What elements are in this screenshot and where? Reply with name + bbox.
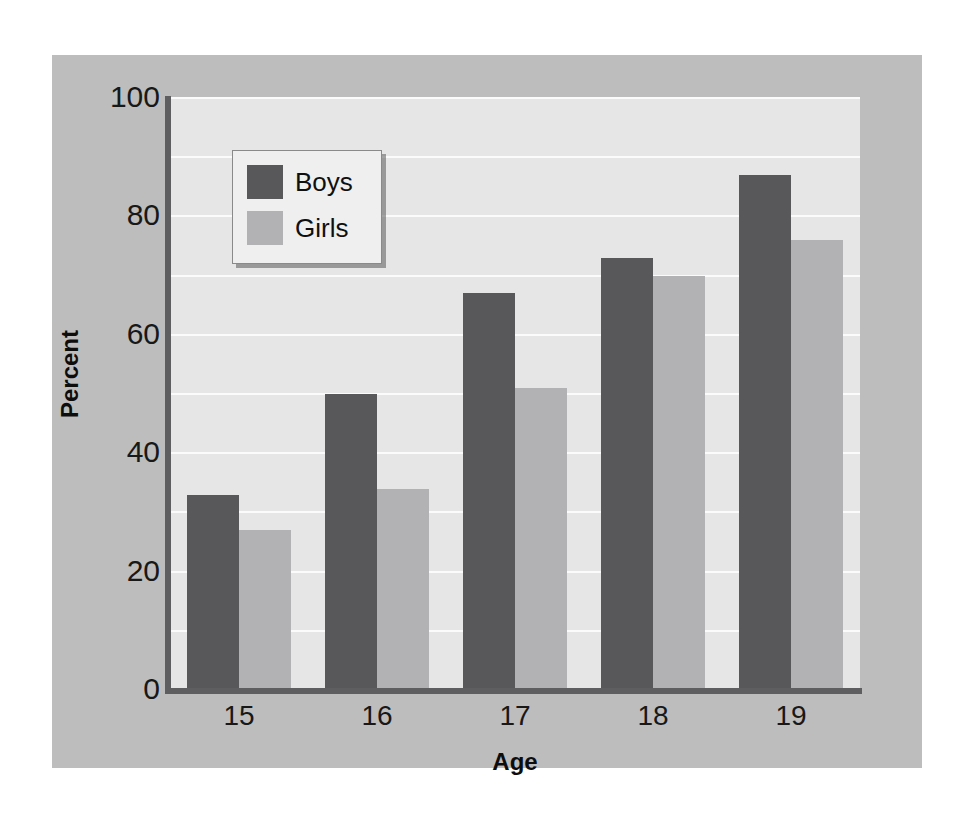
bar-boys-16 [325,394,377,690]
bar-girls-17 [515,388,567,690]
y-tick-label: 100 [100,82,160,112]
bar-girls-18 [653,276,705,690]
legend-item-boys: Boys [247,163,353,201]
y-tick-label: 60 [100,319,160,349]
x-tick-label-17: 17 [446,700,584,732]
legend-swatch-girls [247,211,283,245]
bar-group [584,98,722,690]
bar-boys-17 [463,293,515,690]
bar-group [446,98,584,690]
y-axis-title: Percent [56,294,84,454]
bar-boys-19 [739,175,791,690]
legend-label-boys: Boys [295,169,353,195]
bar-girls-16 [377,489,429,690]
y-tick-label: 40 [100,437,160,467]
x-tick-label-19: 19 [722,700,860,732]
y-tick-label: 20 [100,556,160,586]
x-axis-line [165,688,862,694]
bar-group [722,98,860,690]
bar-boys-15 [187,495,239,690]
chart-legend: BoysGirls [232,150,382,264]
x-axis-title: Age [170,748,860,776]
y-tick-label: 80 [100,200,160,230]
bar-boys-18 [601,258,653,690]
x-tick-label-16: 16 [308,700,446,732]
legend-label-girls: Girls [295,215,348,241]
y-axis-line [165,96,171,694]
bar-girls-19 [791,240,843,690]
y-tick-label: 0 [100,674,160,704]
chart-figure: 020406080100 1516171819 Percent Age Boys… [0,0,968,824]
bar-girls-15 [239,530,291,690]
y-axis-tick-labels: 020406080100 [95,0,160,824]
legend-item-girls: Girls [247,209,348,247]
x-tick-label-15: 15 [170,700,308,732]
legend-swatch-boys [247,165,283,199]
x-tick-label-18: 18 [584,700,722,732]
